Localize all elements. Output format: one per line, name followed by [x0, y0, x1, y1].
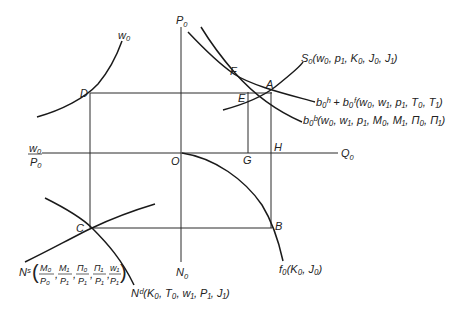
- point-C: C: [76, 222, 84, 234]
- production-curve: [182, 153, 283, 261]
- w0-curve: [37, 41, 122, 117]
- n0-axis-label: N0: [176, 266, 189, 281]
- labor-demand-curve-label: Nᵈ(K₀, T₀, w₁, P₁, J₁): [131, 287, 230, 299]
- svg-text:P₁: P₁: [110, 276, 119, 286]
- svg-text:,: ,: [55, 268, 58, 280]
- point-B: B: [275, 220, 282, 232]
- demand-hf-curve-label: b₀ʰ + b₀ᶠ(w₀, w₁, p₁, T₀, T₁): [316, 96, 443, 108]
- svg-text:,: ,: [73, 268, 76, 280]
- labor-supply-curve-label: Nˢ ( M₀ P₀ , M₁ P₁ , Π₀ P₁ , Π₁ P₁ , w₁ …: [19, 261, 127, 286]
- point-G: G: [243, 154, 252, 166]
- svg-text:P₁: P₁: [95, 276, 104, 286]
- svg-text:M₀: M₀: [40, 263, 51, 273]
- real-wage-label-den: P0: [30, 156, 42, 170]
- svg-text:(: (: [32, 261, 39, 283]
- svg-text:): ): [120, 261, 127, 283]
- p0-axis-label: P0: [176, 14, 188, 29]
- supply-curve-label: S0(w₀, p₁, K₀, J₀, J₁): [301, 52, 398, 66]
- svg-text:P₁: P₁: [78, 276, 87, 286]
- svg-text:Π₁: Π₁: [94, 263, 104, 273]
- svg-text:Π₀: Π₀: [77, 263, 88, 273]
- svg-text:M₁: M₁: [59, 263, 69, 273]
- production-curve-label: f₀(K₀, J₀): [279, 263, 323, 275]
- svg-text:P₁: P₁: [60, 276, 69, 286]
- q0-axis-label: Q0: [341, 147, 355, 162]
- demand-hf-curve: [188, 32, 315, 102]
- demand-b-curve-label: b₀ᵇ(w₀, w₁, p₁, M₀, M₁, Π₀, Π₁): [303, 114, 446, 126]
- svg-text:,: ,: [90, 268, 93, 280]
- svg-text:Nˢ: Nˢ: [19, 266, 31, 278]
- diagram-canvas: P0 N0 Q0 w0 P0 O D A E F G H B C w0 S0(w…: [0, 0, 460, 316]
- demand-b-curve: [201, 27, 302, 122]
- point-D: D: [80, 87, 88, 99]
- point-H: H: [274, 141, 282, 153]
- svg-text:w₁: w₁: [110, 263, 119, 273]
- point-E: E: [238, 92, 246, 104]
- w0-curve-label: w0: [118, 29, 131, 43]
- point-A: A: [265, 78, 273, 90]
- svg-text:P₀: P₀: [40, 276, 50, 286]
- origin-label: O: [171, 155, 180, 167]
